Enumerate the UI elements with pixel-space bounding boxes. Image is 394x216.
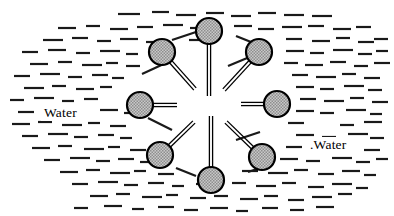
surfactant-tail-line [169,62,194,90]
water-dash-angled [172,32,196,40]
surfactant-head-lower-left [147,142,173,168]
water-dash-angled [176,168,196,176]
diagram-canvas: Water.Water [0,0,394,216]
surfactant-head-left [127,92,153,118]
surfactant-tail-line [171,60,196,88]
surfactant-heads-group [127,18,290,193]
surfactant-tail-line [223,60,250,89]
surfactant-head-lower-right [249,144,275,170]
surfactant-head-bottom [198,167,224,193]
surfactant-top [207,43,210,96]
surfactant-right [241,102,265,105]
water-label-right: .Water [310,137,347,152]
surfactant-head-top [196,18,222,44]
surfactant-tail-line [170,123,195,148]
surfactant-upper-left [169,60,196,90]
surfactant-left [152,103,177,106]
surfactant-upper-right [223,60,252,91]
micelle-diagram: Water.Water [0,0,394,216]
water-dash-angled [148,118,172,130]
surfactant-tail-line [167,121,192,146]
water-labels-group: Water.Water [41,105,355,153]
surfactant-head-right [264,91,290,117]
surfactant-bottom [209,116,212,168]
water-label-left: Water [44,105,77,120]
surfactant-head-upper-right [246,39,272,65]
surfactant-head-upper-left [149,39,175,65]
surfactant-lower-left [167,121,195,148]
